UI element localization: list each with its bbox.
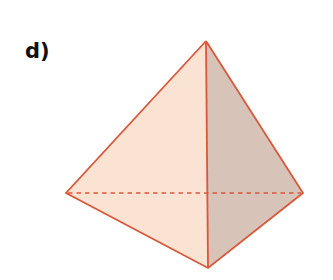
tetrahedron-diagram bbox=[0, 0, 333, 280]
front-face bbox=[66, 41, 208, 268]
side-face bbox=[206, 41, 303, 268]
